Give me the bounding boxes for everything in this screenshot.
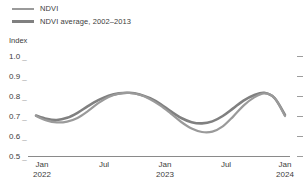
x-axis-tick: Jan 2023 [156,160,174,180]
x-axis-tick: Jan 2024 [276,160,294,180]
x-axis-tick-year: 2022 [33,170,51,180]
x-axis-tick-month: Jul [221,160,231,169]
x-axis-tick: Jul [99,160,109,170]
x-axis-tick: Jan 2022 [33,160,51,180]
x-axis-tick-month: Jan [36,160,49,169]
x-axis-tick-year: 2024 [276,170,294,180]
x-axis-tick: Jul [221,160,231,170]
x-axis-tick-month: Jan [279,160,292,169]
x-axis-tick-month: Jan [159,160,172,169]
ndvi-chart: NDVI NDVI average, 2002–2013 Index 1.0_ … [0,0,307,188]
x-axis-tick-month: Jul [99,160,109,169]
x-axis-tick-year: 2023 [156,170,174,180]
